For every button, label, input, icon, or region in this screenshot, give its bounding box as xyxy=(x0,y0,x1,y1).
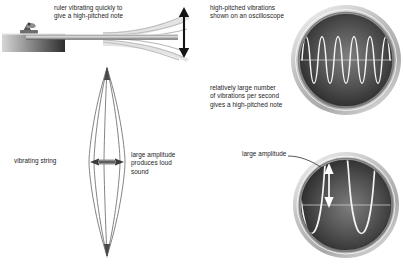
diagram-artwork xyxy=(0,0,403,265)
clamp-icon xyxy=(20,22,38,33)
figure-canvas: ruler vibrating quickly to give a high-p… xyxy=(0,0,403,265)
ruler-oscillation-arrow xyxy=(179,7,189,58)
ruler-blade xyxy=(26,35,178,40)
string-amplitude-arrow xyxy=(90,159,124,166)
string-node-top xyxy=(104,66,110,80)
string-node-bottom xyxy=(104,244,110,258)
oscilloscope-large-amplitude[interactable] xyxy=(293,123,399,259)
oscilloscope-high-pitch[interactable] xyxy=(291,5,401,115)
ruler-apparatus xyxy=(2,7,190,62)
